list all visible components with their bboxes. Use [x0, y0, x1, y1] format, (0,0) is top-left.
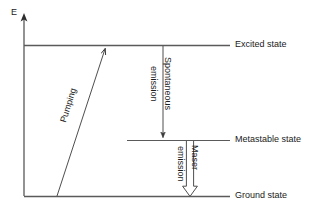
label-spontaneous-emission: emission: [149, 66, 158, 102]
energy-axis: [21, 13, 28, 196]
label-ground-state: Ground state: [235, 191, 287, 200]
label-maser-emission: emission: [176, 146, 185, 182]
label-spontaneous: Spontaneous: [163, 57, 172, 110]
label-metastable-state: Metastable state: [235, 135, 301, 144]
diagram-canvas: [0, 0, 320, 209]
energy-axis-label: E: [11, 8, 17, 17]
energy-level-diagram: E Excited state Metastable state Ground …: [0, 0, 320, 209]
label-excited-state: Excited state: [235, 40, 287, 49]
label-maser: Maser: [190, 145, 199, 170]
